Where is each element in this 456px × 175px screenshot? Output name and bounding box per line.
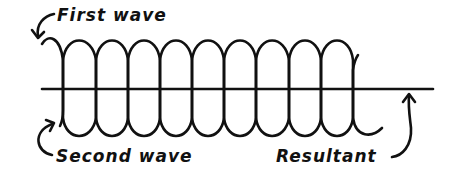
resultant-arrow [392, 95, 411, 157]
first-wave-arrow [38, 14, 54, 36]
wave-interference-diagram: First wave Second wave Resultant [0, 0, 456, 175]
first-wave [42, 38, 358, 136]
resultant-label: Resultant [276, 146, 377, 166]
first-wave-label: First wave [57, 5, 167, 25]
second-wave-label: Second wave [56, 146, 193, 166]
